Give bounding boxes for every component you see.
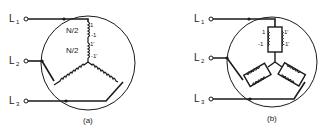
parallel-coil-box-top-b (268, 27, 282, 52)
caption-b: (b) (267, 114, 277, 123)
terminal-l2-a (24, 59, 28, 63)
label-n2-lower: N/2 (66, 46, 79, 55)
wire-neutral-right-b (275, 62, 282, 67)
label-l1-b: L (194, 13, 200, 24)
wire-l3-b (213, 82, 305, 99)
stator-circle-a (41, 16, 135, 110)
wire-l3-a (28, 82, 123, 101)
label-l3-sub-b: 3 (201, 99, 205, 105)
terminal-label-1p-b: 1' (284, 29, 288, 35)
coil-phase-right-a (88, 62, 118, 82)
label-l1-sub-a: 1 (16, 19, 20, 25)
label-n2-upper: N/2 (66, 26, 79, 35)
terminal-label-1p-a: 1' (90, 41, 94, 47)
caption-a: (a) (83, 116, 93, 125)
panel-a (24, 16, 135, 110)
winding-connection-diagram: L 1 L 2 L 3 N/2 N/2 1 -1 1' -1' (a) (0, 0, 328, 128)
label-l2-b: L (194, 52, 200, 63)
label-l3-a: L (9, 95, 15, 106)
junction-dot-l2-b (225, 56, 228, 59)
panel-a-labels: L 1 L 2 L 3 N/2 N/2 1 -1 1' -1' (a) (9, 13, 97, 125)
label-l2-sub-b: 2 (201, 58, 205, 64)
terminal-label-neg1-b: -1 (258, 41, 264, 47)
junction-dot-l1-b (247, 17, 250, 20)
label-l3-sub-a: 3 (16, 101, 20, 107)
label-l3-b: L (194, 93, 200, 104)
terminal-l2-b (209, 56, 213, 60)
junction-dot-l3-a (64, 99, 67, 102)
junction-dot-l1-a (62, 17, 65, 20)
terminal-label-neg1p-b: -1' (283, 41, 289, 47)
label-l2-a: L (9, 55, 15, 66)
terminal-label-1-b: 1 (262, 29, 266, 35)
label-l1-sub-b: 1 (201, 19, 205, 25)
coil-phase-left-a (54, 62, 88, 85)
stator-circle-b (227, 17, 317, 107)
terminal-l1-a (24, 17, 28, 21)
terminal-label-1-a: 1 (90, 22, 94, 28)
label-l2-sub-a: 2 (16, 61, 20, 67)
terminal-l1-b (209, 17, 213, 21)
terminal-label-neg1p-a: -1' (91, 53, 97, 59)
junction-dot-l2-a (40, 59, 43, 62)
terminal-label-neg1-a: -1 (91, 32, 97, 38)
parallel-coil-box-left-b (244, 63, 271, 86)
label-l1-a: L (9, 13, 15, 24)
wire-l1-b (213, 19, 275, 27)
wire-neutral-left-b (268, 62, 275, 67)
wire-l1-a (28, 19, 88, 22)
terminal-l3-a (24, 99, 28, 103)
junction-dot-l3-b (248, 97, 251, 100)
terminal-l3-b (209, 97, 213, 101)
